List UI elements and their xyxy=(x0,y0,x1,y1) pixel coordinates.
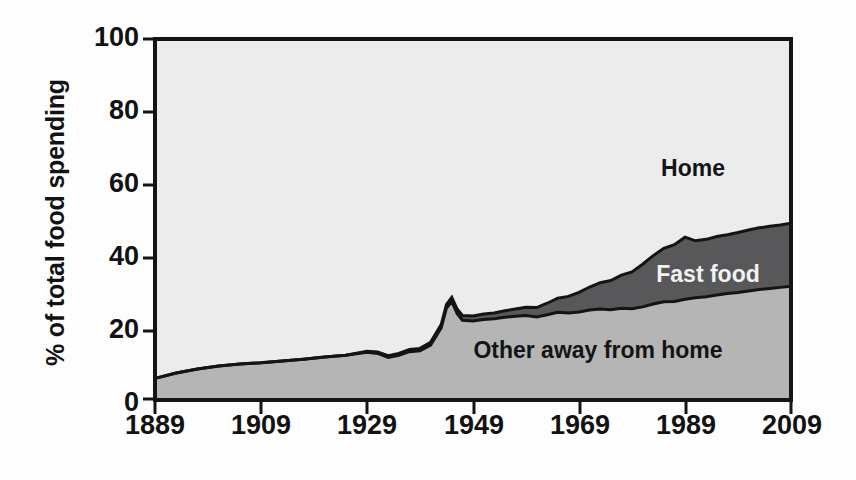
series-label-other-away-from-home: Other away from home xyxy=(473,337,722,364)
stacked-area-plot xyxy=(0,0,856,480)
series-label-fast-food: Fast food xyxy=(656,261,760,288)
series-label-home: Home xyxy=(661,155,725,182)
chart-figure: % of total food spending 100 80 60 40 20… xyxy=(0,0,856,480)
